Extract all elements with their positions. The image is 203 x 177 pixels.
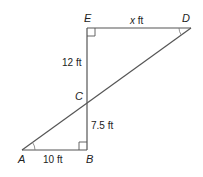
length-label-EC: 12 ft: [62, 57, 82, 68]
vertex-label-A: A: [17, 153, 25, 165]
vertex-label-E: E: [84, 12, 92, 24]
segment-AD: [22, 28, 191, 150]
vertex-label-D: D: [182, 12, 190, 24]
vertex-label-C: C: [75, 90, 83, 102]
length-label-CB: 7.5 ft: [91, 120, 113, 131]
length-label-ED: x ft: [129, 15, 144, 26]
right-angle-mark-B: [79, 142, 87, 150]
length-label-AB: 10 ft: [43, 154, 63, 165]
similar-triangles-diagram: E D C A B x ft 12 ft 7.5 ft 10 ft: [0, 0, 203, 177]
angle-arc-D: [179, 28, 181, 35]
vertex-label-B: B: [86, 153, 93, 165]
unit-ft: ft: [135, 15, 144, 26]
right-angle-mark-E: [87, 28, 95, 36]
angle-arc-A: [33, 142, 36, 150]
